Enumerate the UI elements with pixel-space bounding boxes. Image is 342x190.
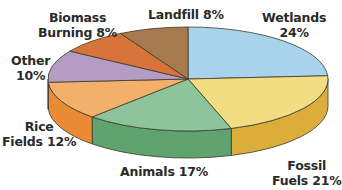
label-rice-line2: Fields 12% [2,134,76,149]
label-animals: Animals 17% [120,164,208,179]
label-biomass: Biomass Burning 8% [38,10,117,40]
label-other-line2: 10% [11,68,50,83]
label-wetlands-line2: 24% [262,25,326,40]
label-other-line1: Other [11,53,50,68]
label-rice: Rice Fields 12% [2,119,76,149]
label-biomass-line2: Burning 8% [38,25,117,40]
label-landfill: Landfill 8% [148,7,224,22]
label-wetlands-line1: Wetlands [262,10,326,25]
label-fossil: Fossil Fuels 21% [272,158,342,188]
label-animals-text: Animals 17% [120,164,208,179]
label-landfill-text: Landfill 8% [148,7,224,22]
label-fossil-line2: Fuels 21% [272,173,342,188]
label-rice-line1: Rice [2,119,76,134]
label-other: Other 10% [11,53,50,83]
label-wetlands: Wetlands 24% [262,10,326,40]
label-biomass-line1: Biomass [38,10,117,25]
label-fossil-line1: Fossil [272,158,342,173]
